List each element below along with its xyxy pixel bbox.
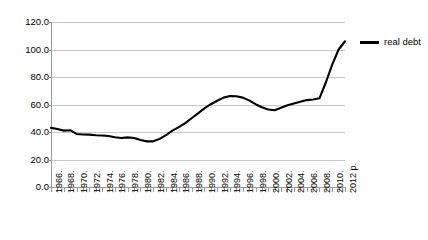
x-axis-tick-mark [51, 188, 52, 192]
x-axis-tick-label: 2006. [310, 170, 319, 193]
x-axis-tick-label: 1990. [208, 170, 217, 193]
x-axis-tick-label: 2004. [297, 170, 306, 193]
x-axis-tick-label: 1978. [131, 170, 140, 193]
gridline [51, 50, 345, 51]
y-axis-tick-label: 20.0 [5, 155, 49, 164]
x-axis-tick-mark [153, 188, 154, 192]
x-axis-tick-label: 2008. [323, 170, 332, 193]
y-axis-tick-mark [47, 160, 51, 161]
x-axis-tick-label: 1996. [246, 170, 255, 193]
x-axis-tick-mark [230, 188, 231, 192]
x-axis-tick-label: 1994. [233, 170, 242, 193]
x-axis-tick-mark [77, 188, 78, 192]
plot-area [51, 22, 345, 187]
x-axis-tick-mark [332, 188, 333, 192]
gridline [51, 77, 345, 78]
x-axis-tick-label: 2010. [336, 170, 345, 193]
x-axis-tick-label: 1986. [182, 170, 191, 193]
x-axis-tick-label: 2012 p. [349, 163, 358, 193]
legend-label-real-debt: real debt [384, 37, 421, 47]
y-axis-tick-label: 120.0 [5, 17, 49, 26]
x-axis-tick-mark [115, 188, 116, 192]
x-axis-tick-label: 2000. [272, 170, 281, 193]
x-axis-tick-label: 1992. [221, 170, 230, 193]
x-axis-tick-label: 1968. [67, 170, 76, 193]
x-axis-tick-mark [140, 188, 141, 192]
x-axis-tick-label: 1998. [259, 170, 268, 193]
line-chart: 0.020.040.060.080.0100.0120.0 1966.1968.… [0, 0, 428, 240]
y-axis-tick-label: 40.0 [5, 127, 49, 136]
x-axis-tick-mark [243, 188, 244, 192]
x-axis-tick-mark [307, 188, 308, 192]
x-axis-tick-mark [319, 188, 320, 192]
y-axis-tick-mark [47, 105, 51, 106]
y-axis-tick-label: 80.0 [5, 72, 49, 81]
x-axis-tick-mark [217, 188, 218, 192]
y-axis-tick-label: 100.0 [5, 45, 49, 54]
y-axis-tick-mark [47, 132, 51, 133]
x-axis-tick-label: 1984. [170, 170, 179, 193]
gridline [51, 160, 345, 161]
x-axis-tick-label: 1988. [195, 170, 204, 193]
x-axis-tick-mark [281, 188, 282, 192]
y-axis-tick-label: 60.0 [5, 100, 49, 109]
y-axis-tick-mark [47, 22, 51, 23]
x-axis-tick-label: 1974. [106, 170, 115, 193]
x-axis-tick-label: 2002. [285, 170, 294, 193]
y-axis-tick-mark [47, 50, 51, 51]
x-axis-tick-label: 1976. [118, 170, 127, 193]
gridline [51, 105, 345, 106]
x-axis-tick-label: 1972. [93, 170, 102, 193]
x-axis-tick-mark [89, 188, 90, 192]
x-axis-tick-mark [128, 188, 129, 192]
gridline [51, 22, 345, 23]
x-axis-tick-label: 1970. [80, 170, 89, 193]
x-axis-tick-mark [345, 188, 346, 192]
x-axis-tick-label: 1980. [144, 170, 153, 193]
legend: real debt [360, 37, 421, 47]
x-axis-tick-mark [204, 188, 205, 192]
legend-swatch-real-debt [360, 41, 379, 44]
x-axis-tick-mark [268, 188, 269, 192]
y-axis-tick-mark [47, 77, 51, 78]
x-axis-tick-label: 1966. [55, 170, 64, 193]
x-axis-tick-mark [192, 188, 193, 192]
gridline [51, 132, 345, 133]
x-axis-tick-mark [256, 188, 257, 192]
x-axis-tick-mark [166, 188, 167, 192]
x-axis-tick-label: 1982. [157, 170, 166, 193]
y-axis-tick-label: 0.0 [5, 182, 49, 191]
x-axis-tick-mark [294, 188, 295, 192]
y-axis-line [51, 22, 52, 188]
x-axis-tick-mark [102, 188, 103, 192]
